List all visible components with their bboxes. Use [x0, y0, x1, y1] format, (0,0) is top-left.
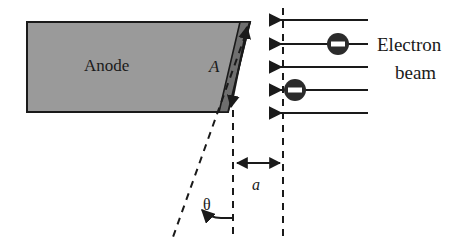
- angle-annotation: θ: [202, 196, 232, 218]
- electron-minus-sign-icon: [331, 42, 345, 47]
- theta-label: θ: [203, 196, 211, 213]
- diagram-canvas: Anode A a θ: [0, 0, 476, 247]
- gap-dimension: a: [237, 163, 280, 193]
- electron-beam-label-line-2: beam: [395, 62, 436, 83]
- gap-label: a: [252, 176, 260, 193]
- anode-label: Anode: [84, 56, 129, 75]
- electron-minus-sign-icon: [288, 88, 302, 93]
- electron-beam-label-line-1: Electron: [377, 34, 442, 55]
- area-label: A: [208, 57, 220, 76]
- electron-beam-arrows: [270, 20, 368, 113]
- electron-marker-1: [327, 33, 349, 55]
- physics-diagram-figure: Anode A a θ: [0, 0, 476, 247]
- electron-beam-label: Electron beam: [377, 34, 442, 83]
- electron-marker-2: [284, 79, 306, 101]
